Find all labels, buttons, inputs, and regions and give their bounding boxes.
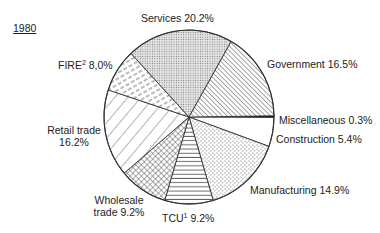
fire-footnote: 2 xyxy=(82,59,86,66)
tcu-value: 9.2% xyxy=(190,212,214,224)
fire-value: 8,0% xyxy=(89,59,113,71)
label-government: Government 16.5% xyxy=(267,58,357,70)
label-tcu: TCU1 9.2% xyxy=(162,212,214,224)
label-fire: FIRE2 8,0% xyxy=(58,59,113,71)
tcu-footnote: 1 xyxy=(184,212,188,219)
label-services: Services 20.2% xyxy=(141,12,214,24)
label-wholesale: Wholesale trade 9.2% xyxy=(88,194,150,218)
tcu-name: TCU xyxy=(162,212,184,224)
retail-line2: 16.2% xyxy=(44,136,104,148)
label-construction: Construction 5.4% xyxy=(276,133,362,145)
chart-year-title: 1980 xyxy=(13,22,36,34)
label-miscellaneous: Miscellaneous 0.3% xyxy=(279,114,372,126)
pie-slices xyxy=(104,30,274,204)
label-retail: Retail trade 16.2% xyxy=(44,124,104,148)
fire-name: FIRE xyxy=(58,59,82,71)
label-manufacturing: Manufacturing 14.9% xyxy=(250,184,349,196)
wholesale-line2: trade 9.2% xyxy=(88,206,150,218)
wholesale-line1: Wholesale xyxy=(88,194,150,206)
retail-line1: Retail trade xyxy=(44,124,104,136)
